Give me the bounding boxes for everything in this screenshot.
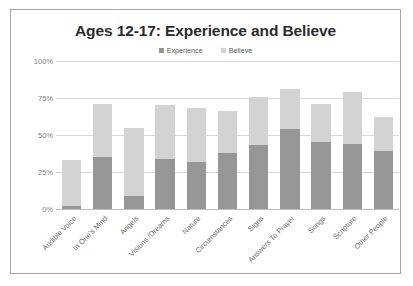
bar-stack <box>93 61 112 209</box>
bar-series-group <box>56 61 399 209</box>
bar-segment-experience[interactable] <box>124 196 143 209</box>
chart-legend: ExperienceBelieve <box>11 46 400 55</box>
bar-group[interactable] <box>187 61 206 209</box>
bar-segment-experience[interactable] <box>343 144 362 209</box>
bar-stack <box>218 61 237 209</box>
y-axis-tick-label: 100% <box>34 57 53 66</box>
bar-segment-believe[interactable] <box>218 111 237 152</box>
bar-segment-experience[interactable] <box>374 151 393 209</box>
bar-stack <box>124 61 143 209</box>
bar-segment-believe[interactable] <box>374 117 393 151</box>
bar-group[interactable] <box>280 61 299 209</box>
bar-group[interactable] <box>311 61 330 209</box>
legend-entry[interactable]: Experience <box>159 46 203 55</box>
bar-segment-experience[interactable] <box>187 162 206 209</box>
bar-segment-believe[interactable] <box>311 104 330 142</box>
bar-stack <box>311 61 330 209</box>
legend-label: Experience <box>167 46 203 55</box>
y-axis-tick-label: 50% <box>38 131 53 140</box>
bar-segment-believe[interactable] <box>124 128 143 196</box>
bar-stack <box>187 61 206 209</box>
bar-stack <box>343 61 362 209</box>
x-axis-tick-label: Songs <box>306 214 327 235</box>
legend-swatch-icon <box>159 48 164 53</box>
bar-group[interactable] <box>343 61 362 209</box>
chart-title: Ages 12-17: Experience and Believe <box>11 22 400 40</box>
legend-swatch-icon <box>221 48 226 53</box>
x-axis-tick-label: Nature <box>181 214 203 236</box>
bar-stack <box>374 61 393 209</box>
x-axis-tick-label: Angels <box>118 214 140 236</box>
bar-segment-believe[interactable] <box>280 89 299 129</box>
bar-segment-believe[interactable] <box>62 160 81 206</box>
legend-label: Believe <box>229 46 253 55</box>
bar-segment-experience[interactable] <box>62 206 81 209</box>
bar-segment-experience[interactable] <box>155 159 174 209</box>
legend-entry[interactable]: Believe <box>221 46 253 55</box>
y-axis: 0%25%50%75%100% <box>23 61 53 209</box>
bar-group[interactable] <box>124 61 143 209</box>
bar-group[interactable] <box>62 61 81 209</box>
x-axis-tick-label: Scripture <box>331 214 358 241</box>
bar-segment-experience[interactable] <box>280 129 299 209</box>
y-axis-tick-label: 0% <box>42 205 53 214</box>
bar-group[interactable] <box>374 61 393 209</box>
bar-stack <box>280 61 299 209</box>
bar-segment-believe[interactable] <box>249 97 268 146</box>
bar-group[interactable] <box>155 61 174 209</box>
chart-container: Ages 12-17: Experience and Believe Exper… <box>10 9 401 274</box>
x-axis: Audible VoiceIn One's MindAngelsVisions … <box>56 210 399 280</box>
x-axis-tick-label: Signs <box>246 214 265 233</box>
y-axis-tick-label: 25% <box>38 168 53 177</box>
y-axis-tick-label: 75% <box>38 94 53 103</box>
bar-group[interactable] <box>218 61 237 209</box>
bar-stack <box>249 61 268 209</box>
bar-group[interactable] <box>249 61 268 209</box>
bar-segment-experience[interactable] <box>218 153 237 209</box>
bar-segment-believe[interactable] <box>155 105 174 158</box>
bar-segment-believe[interactable] <box>343 92 362 144</box>
bar-stack <box>155 61 174 209</box>
bar-segment-experience[interactable] <box>311 142 330 209</box>
bar-group[interactable] <box>93 61 112 209</box>
bar-segment-believe[interactable] <box>93 104 112 157</box>
bar-segment-believe[interactable] <box>187 108 206 161</box>
bar-segment-experience[interactable] <box>249 145 268 209</box>
bar-segment-experience[interactable] <box>93 157 112 209</box>
bar-stack <box>62 61 81 209</box>
